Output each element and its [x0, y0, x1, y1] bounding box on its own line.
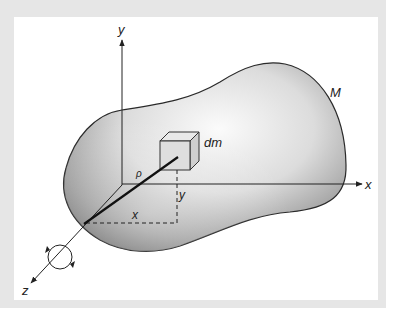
- z-axis-label: z: [21, 283, 29, 298]
- x-axis-label: x: [364, 177, 372, 192]
- y-axis-label: y: [117, 22, 126, 37]
- mass-element-label: dm: [204, 135, 222, 150]
- rigid-body-diagram: y x z M dm ρ y x: [0, 0, 398, 324]
- mass-element-cube: [160, 132, 199, 170]
- body-m: [64, 63, 346, 252]
- radius-label: ρ: [135, 168, 142, 179]
- y-distance-label: y: [178, 188, 186, 202]
- x-distance-label: x: [131, 208, 139, 222]
- body-mass-label: M: [330, 85, 341, 100]
- rotation-arrow-icon: [45, 245, 75, 269]
